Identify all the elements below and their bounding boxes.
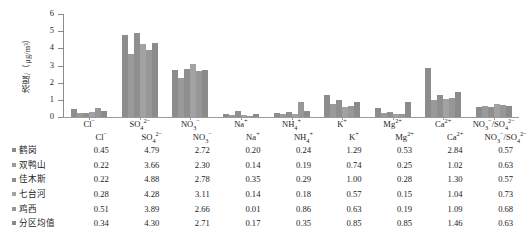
y-tick-label: 1 (8, 95, 54, 104)
table-cell: 0.22 (76, 172, 127, 187)
x-tick (292, 117, 293, 120)
x-tick (89, 117, 90, 120)
table-cell: 0.28 (379, 172, 430, 187)
bar-group (425, 14, 461, 117)
table-corner-cell (0, 130, 76, 143)
table-cell: 0.01 (228, 201, 279, 216)
bar (455, 92, 461, 117)
table-cell: 0.63 (329, 201, 380, 216)
table-cell: 0.63 (480, 158, 531, 173)
table-cell: 0.57 (480, 143, 531, 158)
y-tick-label: 5 (8, 26, 54, 35)
table-cell: 0.17 (228, 216, 279, 231)
table-cell: 0.45 (76, 143, 127, 158)
legend-swatch-icon (12, 192, 16, 196)
y-tick-label: 6 (8, 9, 54, 18)
values-table: Cl−SO42−NO3−Na+NH4+K+Mg2+Ca2+NO3−/SO42− … (0, 130, 531, 231)
legend-label: 鸡西 (19, 204, 37, 214)
table-column-header: Ca2+ (430, 130, 481, 143)
table-column-header: NH4+ (278, 130, 329, 143)
legend-label: 七台河 (19, 189, 46, 199)
x-tick (190, 117, 191, 120)
legend-swatch-icon (12, 178, 16, 182)
legend-entry: 双鸭山 (0, 158, 76, 173)
bar-group (122, 14, 158, 117)
legend-entry: 佳木斯 (0, 172, 76, 187)
legend-entry: 鹤岗 (0, 143, 76, 158)
plot-area (64, 14, 519, 117)
bar-group (172, 14, 208, 117)
table-cell: 0.25 (379, 158, 430, 173)
bar (202, 70, 208, 117)
bar (101, 111, 107, 117)
table-cell: 2.30 (177, 158, 228, 173)
legend-entry: 七台河 (0, 187, 76, 202)
y-tick-label: 3 (8, 61, 54, 70)
bar (253, 114, 259, 117)
x-tick (241, 117, 242, 120)
legend-label: 双鸭山 (19, 160, 46, 170)
table-column-header: NO3− (177, 130, 228, 143)
table-cell: 0.35 (278, 216, 329, 231)
table-column-header: Mg2+ (379, 130, 430, 143)
table-cell: 4.28 (127, 187, 178, 202)
table-row: 分区均值0.344.302.710.170.350.850.851.460.63 (0, 216, 531, 231)
table-cell: 0.22 (76, 158, 127, 173)
table-cell: 0.51 (76, 201, 127, 216)
x-tick (443, 117, 444, 120)
table-header-row: Cl−SO42−NO3−Na+NH4+K+Mg2+Ca2+NO3−/SO42− (0, 130, 531, 143)
table-cell: 1.02 (430, 158, 481, 173)
table-cell: 0.24 (278, 143, 329, 158)
table-cell: 0.29 (278, 172, 329, 187)
bar-group (223, 14, 259, 117)
table-cell: 0.53 (379, 143, 430, 158)
table-row: 鸡西0.513.892.660.010.860.630.191.090.68 (0, 201, 531, 216)
table-cell: 4.30 (127, 216, 178, 231)
table-cell: 0.35 (228, 172, 279, 187)
table-cell: 2.78 (177, 172, 228, 187)
bar-group (71, 14, 107, 117)
table-cell: 0.74 (329, 158, 380, 173)
table-cell: 0.57 (329, 187, 380, 202)
table-row: 七台河0.284.283.110.140.180.570.151.040.73 (0, 187, 531, 202)
table-row: 双鸭山0.223.662.300.140.190.740.251.020.63 (0, 158, 531, 173)
bar (354, 102, 360, 117)
table-cell: 0.34 (76, 216, 127, 231)
table-row: 鹤岗0.454.792.720.200.241.290.532.840.57 (0, 143, 531, 158)
table-cell: 1.30 (430, 172, 481, 187)
data-table: Cl−SO42−NO3−Na+NH4+K+Mg2+Ca2+NO3−/SO42− … (0, 130, 525, 239)
table-cell: 3.11 (177, 187, 228, 202)
y-tick-label: 4 (8, 43, 54, 52)
bar (506, 106, 512, 117)
table-cell: 1.04 (430, 187, 481, 202)
bar (304, 111, 310, 117)
table-cell: 2.71 (177, 216, 228, 231)
legend-entry: 鸡西 (0, 201, 76, 216)
table-cell: 0.20 (228, 143, 279, 158)
legend-label: 分区均值 (19, 218, 55, 228)
table-column-header: NO3−/SO42− (480, 130, 531, 143)
table-cell: 0.85 (329, 216, 380, 231)
table-cell: 1.00 (329, 172, 380, 187)
legend-entry: 分区均值 (0, 216, 76, 231)
table-cell: 0.18 (278, 187, 329, 202)
x-tick (494, 117, 495, 120)
table-cell: 4.88 (127, 172, 178, 187)
bar (152, 43, 158, 117)
legend-swatch-icon (12, 207, 16, 211)
legend-swatch-icon (12, 148, 16, 152)
legend-swatch-icon (12, 221, 16, 225)
table-cell: 1.46 (430, 216, 481, 231)
table-cell: 0.63 (480, 216, 531, 231)
table-row: 佳木斯0.224.882.780.350.291.000.281.300.57 (0, 172, 531, 187)
legend-swatch-icon (12, 163, 16, 167)
x-tick (342, 117, 343, 120)
bar (405, 102, 411, 117)
x-axis-label: NO3−/SO42− (454, 119, 531, 130)
table-cell: 1.29 (329, 143, 380, 158)
table-cell: 0.14 (228, 187, 279, 202)
bar-group (324, 14, 360, 117)
table-column-header: Cl− (76, 130, 127, 143)
table-cell: 0.28 (76, 187, 127, 202)
